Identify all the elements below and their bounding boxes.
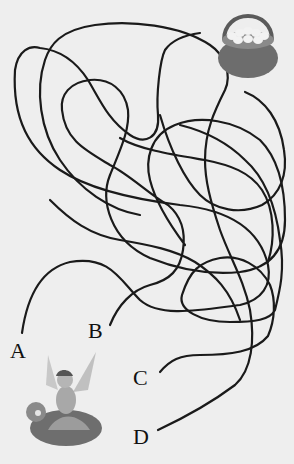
maze-puzzle: A B C D <box>0 0 294 464</box>
start-label-a: A <box>10 340 26 362</box>
start-label-b: B <box>88 320 103 342</box>
egg-basket-icon <box>208 0 288 80</box>
fairy-icon <box>18 350 113 450</box>
start-label-d: D <box>133 426 149 448</box>
maze-path-b <box>62 80 285 325</box>
start-label-c: C <box>133 367 148 389</box>
